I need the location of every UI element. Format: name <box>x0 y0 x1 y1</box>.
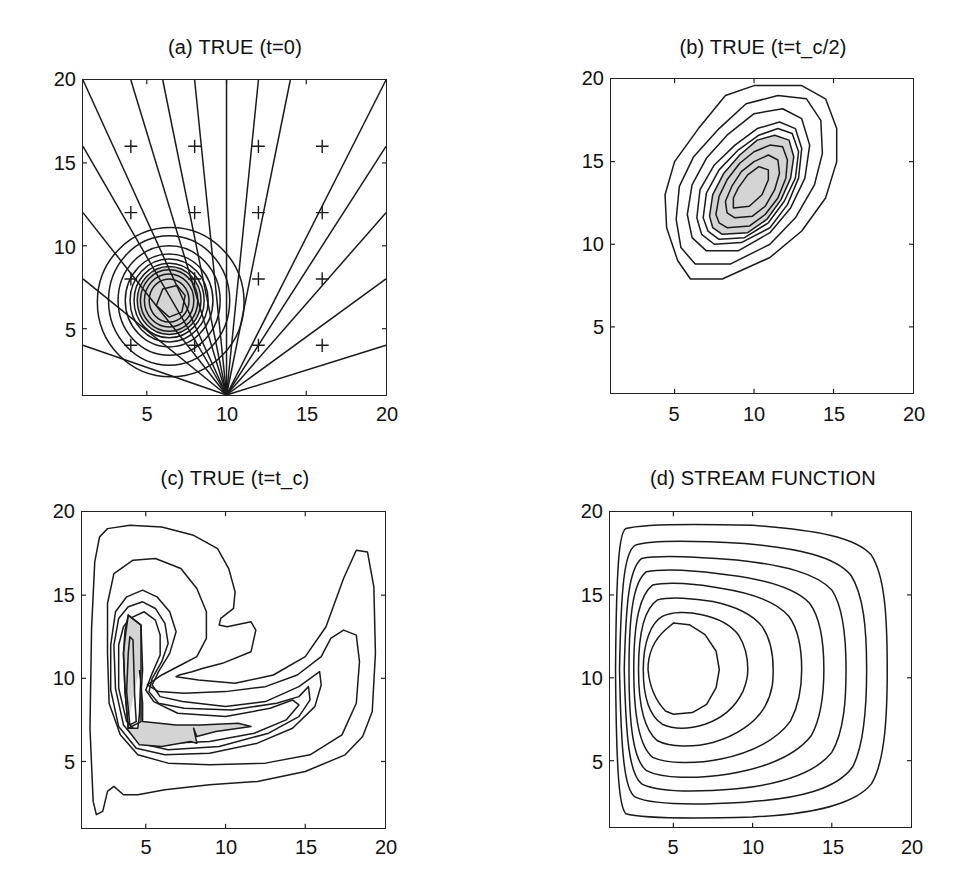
y-tick-15: 15 <box>35 584 75 607</box>
x-tick-10: 10 <box>216 403 238 426</box>
plot-area-a <box>82 79 387 396</box>
x-tick-10: 10 <box>742 836 764 859</box>
streamfunction-contours <box>616 524 888 818</box>
hook-contours <box>90 525 375 814</box>
x-tick-5: 5 <box>141 403 152 426</box>
plot-area-d <box>609 511 912 828</box>
y-tick-20: 20 <box>564 67 604 90</box>
plot-area-b <box>610 78 914 394</box>
contour-plot-b <box>611 79 913 393</box>
y-tick-5: 5 <box>36 319 76 342</box>
y-tick-10: 10 <box>36 236 76 259</box>
y-tick-20: 20 <box>563 500 603 523</box>
y-tick-15: 15 <box>564 150 604 173</box>
x-tick-5: 5 <box>140 836 151 859</box>
contour-plot-d <box>610 512 911 827</box>
y-tick-10: 10 <box>564 233 604 256</box>
x-tick-20: 20 <box>376 403 398 426</box>
y-tick-5: 5 <box>563 751 603 774</box>
x-tick-10: 10 <box>215 836 237 859</box>
x-tick-10: 10 <box>743 403 765 426</box>
y-tick-5: 5 <box>564 316 604 339</box>
y-tick-10: 10 <box>563 667 603 690</box>
x-tick-15: 15 <box>295 836 317 859</box>
x-tick-20: 20 <box>903 403 925 426</box>
panel-d-title: (d) STREAM FUNCTION <box>650 467 876 490</box>
x-tick-15: 15 <box>296 403 318 426</box>
panel-b-title: (b) TRUE (t=t_c/2) <box>679 36 846 59</box>
y-tick-20: 20 <box>36 68 76 91</box>
axis-ticks <box>610 512 911 827</box>
axis-ticks <box>611 79 913 393</box>
contour-plot-c <box>82 512 385 828</box>
x-tick-20: 20 <box>375 836 397 859</box>
x-tick-5: 5 <box>667 836 678 859</box>
contour-plot-a <box>83 80 386 395</box>
x-tick-20: 20 <box>901 836 923 859</box>
x-tick-15: 15 <box>823 403 845 426</box>
blob-contours <box>665 86 837 279</box>
x-tick-5: 5 <box>668 403 679 426</box>
y-tick-15: 15 <box>563 584 603 607</box>
x-tick-15: 15 <box>822 836 844 859</box>
y-tick-10: 10 <box>35 667 75 690</box>
panel-a-title: (a) TRUE (t=0) <box>168 36 302 59</box>
panel-c-title: (c) TRUE (t=t_c) <box>161 467 310 490</box>
plot-area-c <box>81 511 386 829</box>
y-tick-20: 20 <box>35 500 75 523</box>
y-tick-5: 5 <box>35 751 75 774</box>
y-tick-15: 15 <box>36 152 76 175</box>
